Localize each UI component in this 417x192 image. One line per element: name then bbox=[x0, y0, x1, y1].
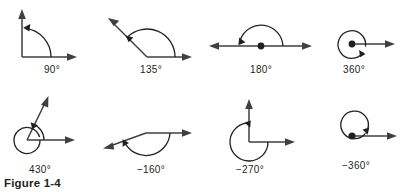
angle-neg270-drawing bbox=[206, 96, 316, 166]
angle-diagram-135: 135° bbox=[93, 0, 208, 96]
rotation-arc bbox=[124, 133, 170, 156]
arc-arrowhead bbox=[23, 24, 30, 32]
angle-180-drawing bbox=[198, 0, 316, 70]
angle-label-neg270: −270° bbox=[220, 164, 280, 175]
initial-ray-arrowhead bbox=[67, 53, 77, 61]
figure-1-4: 90° 135° 180° bbox=[0, 0, 417, 192]
angle-label-430: 430° bbox=[14, 164, 66, 175]
angle-135-drawing bbox=[93, 0, 208, 70]
vertex-dot bbox=[349, 41, 356, 48]
terminal-ray-arrowhead bbox=[209, 42, 219, 50]
angle-label-360: 360° bbox=[328, 64, 380, 75]
terminal-ray-arrowhead bbox=[245, 99, 253, 109]
angle-diagram-90: 90° bbox=[0, 0, 104, 96]
vertex-dot bbox=[258, 43, 265, 50]
angle-label-135: 135° bbox=[125, 64, 177, 75]
angle-430-drawing bbox=[0, 96, 104, 166]
initial-ray-arrowhead bbox=[387, 132, 397, 140]
rotation-arc bbox=[127, 29, 175, 57]
terminal-ray bbox=[27, 103, 45, 140]
angle-90-drawing bbox=[0, 0, 104, 70]
angle-label-90: 90° bbox=[26, 64, 78, 75]
angle-label-180: 180° bbox=[235, 64, 287, 75]
initial-ray-arrowhead bbox=[385, 40, 395, 48]
initial-ray-arrowhead bbox=[285, 138, 295, 146]
arc-arrowhead bbox=[363, 128, 370, 135]
terminal-ray-arrowhead bbox=[41, 96, 48, 108]
arc-arrowhead bbox=[245, 120, 251, 127]
terminal-ray-arrowhead bbox=[18, 9, 26, 19]
angle-diagram-180: 180° bbox=[198, 0, 316, 96]
angle-diagram-neg160: −160° bbox=[93, 96, 208, 176]
angle-diagram-430: 430° bbox=[0, 96, 104, 176]
angle-diagram-neg360: −360° bbox=[316, 96, 417, 176]
angle-diagram-neg270: −270° bbox=[206, 96, 316, 176]
arc-arrowhead bbox=[238, 38, 245, 46]
initial-ray-arrowhead bbox=[182, 129, 192, 137]
figure-caption: Figure 1-4 bbox=[4, 177, 61, 189]
angle-neg360-drawing bbox=[316, 96, 417, 166]
initial-ray-arrowhead bbox=[182, 53, 192, 61]
angle-label-neg360: −360° bbox=[326, 160, 386, 171]
angle-diagram-360: 360° bbox=[310, 0, 417, 96]
terminal-ray-arrowhead bbox=[108, 18, 119, 26]
rotation-arc bbox=[26, 28, 51, 57]
terminal-ray bbox=[110, 133, 146, 146]
angle-360-drawing bbox=[310, 0, 417, 70]
angle-label-neg160: −160° bbox=[121, 164, 181, 175]
terminal-ray-arrowhead bbox=[103, 142, 114, 149]
angle-neg160-drawing bbox=[93, 96, 208, 166]
initial-ray-arrowhead bbox=[65, 136, 75, 144]
